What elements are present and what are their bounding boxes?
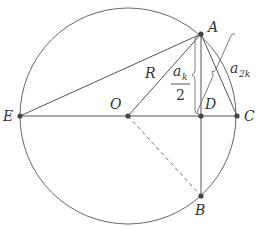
label-A: A [206, 19, 218, 35]
label-E: E [2, 108, 13, 124]
half-chord-numerator: a [173, 63, 181, 79]
half-chord-subscript: k [182, 72, 187, 82]
chord-2k-subscript: 2k [238, 69, 250, 79]
radius-label-R: R [144, 65, 156, 81]
chord-2k-base: a [230, 60, 238, 76]
point-B [198, 193, 203, 198]
label-B: B [194, 202, 205, 218]
label-D: D [204, 96, 216, 112]
point-O [125, 113, 130, 118]
half-chord-denominator: 2 [176, 87, 185, 103]
diagram-svg: A B C D E O R a k 2 a 2k [0, 0, 259, 231]
label-C: C [244, 108, 255, 124]
point-E [17, 113, 22, 118]
point-C [234, 113, 239, 118]
point-A [198, 31, 203, 36]
brace-half-chord [192, 36, 198, 114]
dashed-radius-OB [128, 116, 201, 196]
label-O: O [110, 96, 122, 112]
circle-geometry-diagram: A B C D E O R a k 2 a 2k [0, 0, 259, 231]
radius-OA [128, 34, 201, 116]
point-D [198, 113, 203, 118]
